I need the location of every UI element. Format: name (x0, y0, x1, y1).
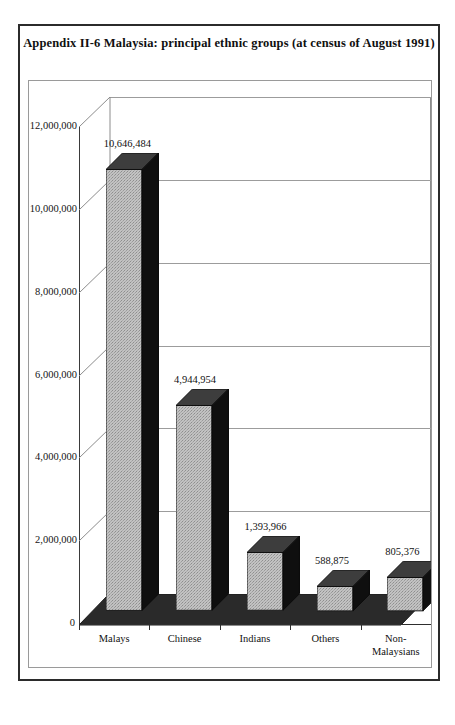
x-axis-tick (149, 624, 150, 630)
x-axis-line (79, 624, 431, 625)
y-tick-zero: 0 (55, 617, 75, 628)
x-axis-tick (79, 624, 80, 630)
bar-column (247, 536, 302, 612)
bar-column (317, 570, 372, 613)
x-axis-tick (290, 624, 291, 630)
x-axis-tick (361, 624, 362, 630)
chart-frame: 2,000,0004,000,0006,000,0008,000,00010,0… (28, 80, 432, 668)
bar-column (387, 561, 431, 613)
bar-value-label: 588,875 (315, 555, 349, 566)
bar-value-label: 10,646,484 (104, 138, 151, 149)
x-axis-category-label: Indians (220, 633, 290, 646)
bar-value-label: 4,944,954 (174, 374, 216, 385)
bar-value-label: 1,393,966 (245, 521, 287, 532)
x-axis-tick (220, 624, 221, 630)
bar-value-label: 805,376 (385, 546, 419, 557)
x-axis-category-label: Malays (79, 633, 149, 646)
bars-group: 10,646,4844,944,9541,393,966588,875805,3… (29, 81, 431, 667)
plot-area: 2,000,0004,000,0006,000,0008,000,00010,0… (29, 81, 431, 667)
bar-column (176, 389, 231, 612)
x-axis-category-label: Non- Malaysians (361, 633, 431, 658)
x-axis-category-label: Others (290, 633, 360, 646)
x-axis-category-label: Chinese (149, 633, 219, 646)
bar-column (106, 153, 161, 612)
chart-title: Appendix II-6 Malaysia: principal ethnic… (18, 36, 440, 51)
